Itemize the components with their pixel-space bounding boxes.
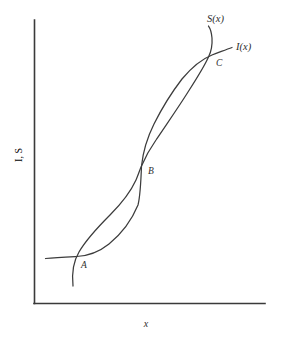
curve-s-of-x bbox=[72, 26, 212, 286]
curve-i-of-x bbox=[46, 48, 233, 259]
point-label-c: C bbox=[216, 58, 223, 68]
curve-label-i: I(x) bbox=[235, 41, 252, 53]
line-chart: S(x) I(x) A B C x I, S bbox=[0, 0, 282, 339]
curve-label-s: S(x) bbox=[207, 13, 224, 25]
point-label-b: B bbox=[148, 166, 154, 176]
point-label-a: A bbox=[80, 260, 87, 270]
y-axis-label: I, S bbox=[13, 148, 24, 162]
figure-container: S(x) I(x) A B C x I, S bbox=[0, 0, 282, 339]
x-axis-label: x bbox=[143, 318, 149, 329]
